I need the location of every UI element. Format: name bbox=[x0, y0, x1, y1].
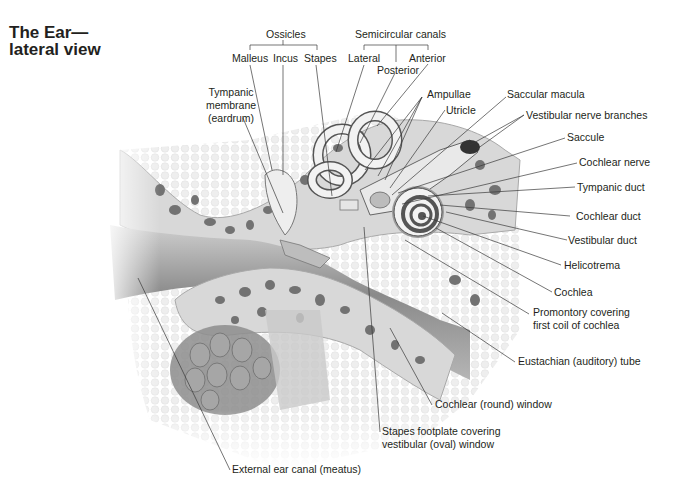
semicircular-canals-group-label: Semicircular canals bbox=[355, 28, 446, 41]
label-posterior: Posterior bbox=[377, 64, 419, 77]
label-vestibular-nerve-branches: Vestibular nerve branches bbox=[526, 109, 647, 122]
tympanic-line-1: Tympanic bbox=[200, 86, 262, 99]
label-ampullae: Ampullae bbox=[427, 88, 471, 101]
tympanic-line-2: membrane bbox=[200, 99, 262, 112]
label-incus: Incus bbox=[273, 52, 298, 65]
stapes-footplate-line-2: vestibular (oval) window bbox=[382, 438, 501, 451]
stapes-footplate-line-1: Stapes footplate covering bbox=[382, 425, 501, 438]
ear-illustration bbox=[0, 0, 680, 503]
label-malleus: Malleus bbox=[232, 52, 268, 65]
label-eustachian-tube: Eustachian (auditory) tube bbox=[518, 355, 641, 368]
label-helicotrema: Helicotrema bbox=[564, 259, 620, 272]
label-cochlea: Cochlea bbox=[554, 286, 593, 299]
promontory-line-1: Promontory covering bbox=[533, 306, 630, 319]
label-tympanic-membrane: Tympanic membrane (eardrum) bbox=[200, 86, 262, 125]
label-promontory: Promontory covering first coil of cochle… bbox=[533, 306, 630, 332]
cochlea-art bbox=[392, 186, 444, 238]
promontory-line-2: first coil of cochlea bbox=[533, 319, 630, 332]
label-saccule: Saccule bbox=[567, 131, 604, 144]
label-lateral: Lateral bbox=[348, 52, 380, 65]
label-stapes: Stapes bbox=[304, 52, 337, 65]
label-tympanic-duct: Tympanic duct bbox=[577, 181, 645, 194]
label-saccular-macula: Saccular macula bbox=[507, 88, 585, 101]
tympanic-line-3: (eardrum) bbox=[200, 112, 262, 125]
label-cochlear-duct: Cochlear duct bbox=[576, 210, 641, 223]
label-anterior: Anterior bbox=[409, 52, 446, 65]
ossicles-group-label: Ossicles bbox=[266, 28, 306, 41]
label-round-window: Cochlear (round) window bbox=[435, 398, 552, 411]
label-vestibular-duct: Vestibular duct bbox=[568, 234, 637, 247]
label-utricle: Utricle bbox=[446, 104, 476, 117]
label-stapes-footplate: Stapes footplate covering vestibular (ov… bbox=[382, 425, 501, 451]
label-external-ear-canal: External ear canal (meatus) bbox=[232, 463, 361, 476]
label-cochlear-nerve: Cochlear nerve bbox=[579, 156, 650, 169]
